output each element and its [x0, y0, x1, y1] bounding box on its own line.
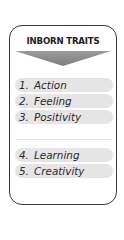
trait-number: 1. — [19, 78, 34, 92]
trait-number: 5. — [19, 164, 34, 178]
trait-number: 4. — [19, 148, 34, 162]
trait-label: Creativity — [34, 165, 85, 177]
trait-number: 3. — [19, 110, 34, 124]
inborn-traits-card: INBORN TRAITS 1.Action 2.Feeling 3.Posit… — [9, 25, 117, 205]
trait-item-learning: 4.Learning — [15, 148, 113, 162]
trait-item-positivity: 3.Positivity — [15, 110, 113, 124]
trait-label: Learning — [34, 149, 79, 161]
trait-item-feeling: 2.Feeling — [15, 94, 113, 108]
trait-item-action: 1.Action — [15, 78, 113, 92]
down-arrow-icon — [15, 51, 111, 66]
trait-number: 2. — [19, 94, 34, 108]
card-title: INBORN TRAITS — [10, 36, 116, 46]
group-divider — [16, 139, 112, 140]
trait-item-creativity: 5.Creativity — [15, 164, 113, 178]
trait-label: Feeling — [34, 95, 72, 107]
trait-label: Positivity — [34, 111, 81, 123]
trait-label: Action — [34, 79, 67, 91]
